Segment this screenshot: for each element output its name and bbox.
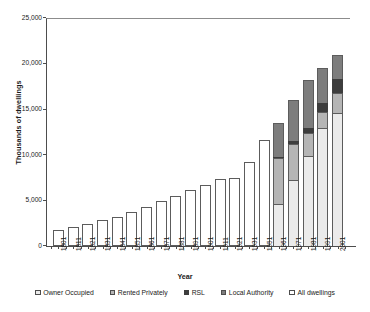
bar-segment xyxy=(229,178,240,246)
legend-swatch xyxy=(35,290,41,296)
y-tick-label: 20,000 xyxy=(8,60,42,67)
bar-column xyxy=(288,100,299,246)
x-tick-mark-minor xyxy=(154,246,155,249)
x-tick-mark-minor xyxy=(125,246,126,249)
bar-column xyxy=(229,178,240,246)
x-tick-mark-minor xyxy=(51,246,52,249)
x-tick-mark-minor xyxy=(301,246,302,249)
y-tick-label: 5,000 xyxy=(8,197,42,204)
x-tick-mark-minor xyxy=(81,246,82,249)
bar-segment xyxy=(332,113,343,246)
x-axis-title: Year xyxy=(0,272,370,281)
legend-item: Local Authority xyxy=(221,289,274,296)
y-axis-title: Thousands of dwellings xyxy=(14,53,23,193)
x-tick-mark xyxy=(73,246,74,249)
bar-column xyxy=(244,162,255,246)
x-tick-mark-minor xyxy=(286,246,287,249)
legend-swatch xyxy=(184,290,190,296)
legend-item: Rented Privately xyxy=(110,289,168,296)
x-tick-mark xyxy=(264,246,265,249)
x-tick-mark-minor xyxy=(257,246,258,249)
x-tick-mark-minor xyxy=(183,246,184,249)
bar-segment xyxy=(332,55,343,80)
x-tick-mark-minor xyxy=(330,246,331,249)
bar-column xyxy=(317,68,328,246)
legend-label: Rented Privately xyxy=(118,289,168,296)
x-tick-mark-minor xyxy=(110,246,111,249)
x-tick-mark-minor xyxy=(242,246,243,249)
legend-swatch xyxy=(221,290,227,296)
legend-item: All dwellings xyxy=(289,289,334,296)
x-tick-mark-minor xyxy=(169,246,170,249)
bar-segment xyxy=(303,133,314,156)
x-tick-mark-minor xyxy=(315,246,316,249)
y-tick-label: 10,000 xyxy=(8,152,42,159)
bar-series-container xyxy=(46,18,350,246)
legend-label: Local Authority xyxy=(229,289,274,296)
y-tick-label: 15,000 xyxy=(8,106,42,113)
legend-item: RSL xyxy=(184,289,205,296)
bar-segment xyxy=(273,123,284,157)
bar-segment xyxy=(303,80,314,128)
chart-legend: Owner OccupiedRented PrivatelyRSLLocal A… xyxy=(0,289,370,296)
x-tick-mark-minor xyxy=(213,246,214,249)
bar-segment xyxy=(259,140,270,246)
bar-segment xyxy=(244,162,255,246)
bar-segment xyxy=(317,112,328,128)
bar-column xyxy=(259,140,270,246)
bar-column xyxy=(303,80,314,246)
legend-label: RSL xyxy=(192,289,205,296)
x-tick-mark xyxy=(176,246,177,249)
bar-segment xyxy=(273,158,284,204)
bar-segment xyxy=(332,79,343,93)
x-tick-mark-minor xyxy=(271,246,272,249)
y-tick-label: 25,000 xyxy=(8,15,42,22)
bar-segment xyxy=(288,144,299,180)
bar-segment xyxy=(317,68,328,103)
x-tick-mark-minor xyxy=(139,246,140,249)
y-tick-label: 0 xyxy=(8,243,42,250)
legend-swatch xyxy=(110,290,116,296)
legend-label: Owner Occupied xyxy=(43,289,94,296)
x-tick-mark-minor xyxy=(198,246,199,249)
bar-segment xyxy=(303,156,314,246)
bar-segment xyxy=(288,100,299,141)
x-tick-mark-minor xyxy=(95,246,96,249)
x-tick-mark-minor xyxy=(345,246,346,249)
dwellings-stacked-bar-chart: Thousands of dwellings 05,00010,00015,00… xyxy=(0,0,370,312)
bar-segment xyxy=(317,128,328,246)
x-tick-mark-minor xyxy=(227,246,228,249)
bar-column xyxy=(332,55,343,246)
x-tick-mark-minor xyxy=(66,246,67,249)
legend-swatch xyxy=(289,290,295,296)
bar-segment xyxy=(332,93,343,113)
x-tick-mark xyxy=(308,246,309,249)
x-tick-mark xyxy=(132,246,133,249)
legend-item: Owner Occupied xyxy=(35,289,94,296)
legend-label: All dwellings xyxy=(297,289,334,296)
bar-column xyxy=(273,123,284,246)
x-tick-mark xyxy=(220,246,221,249)
bar-segment xyxy=(317,103,328,112)
